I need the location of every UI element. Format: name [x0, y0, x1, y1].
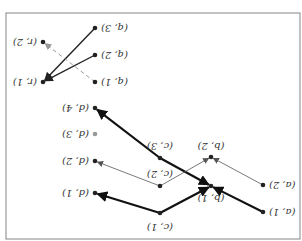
node-label-r2: (r, 2) [13, 37, 37, 48]
node-label-q2: (q, 2) [101, 50, 128, 61]
node-b1 [209, 184, 214, 189]
diagram-canvas: (a, 1)(a, 2)(b, 1)(b, 2)(c, 1)(c, 2)(c, … [0, 0, 302, 241]
node-label-b1: (b, 1) [197, 193, 224, 204]
edge-q1-to-r2 [45, 44, 95, 82]
node-q3 [93, 26, 98, 31]
node-label-c2: (c, 2) [147, 169, 173, 180]
node-d3 [93, 132, 98, 137]
node-c1 [158, 211, 163, 216]
node-label-d3: (d, 3) [62, 129, 89, 140]
edge-a2-to-b2 [213, 158, 263, 185]
nodes-layer [41, 26, 266, 216]
labels-layer: (a, 1)(a, 2)(b, 1)(b, 2)(c, 1)(c, 2)(c, … [13, 23, 296, 233]
node-label-b2: (b, 2) [197, 141, 224, 152]
node-label-d4: (d, 4) [62, 103, 89, 114]
edge-q3-to-r1 [45, 28, 95, 80]
node-c2 [158, 184, 163, 189]
node-label-c3: (c, 3) [147, 141, 173, 152]
node-q1 [93, 80, 98, 85]
node-d4 [93, 106, 98, 111]
node-b2 [209, 155, 214, 160]
node-label-r1: (r, 1) [13, 77, 37, 88]
node-r2 [41, 40, 46, 45]
node-label-d2: (d, 2) [62, 156, 89, 167]
node-q2 [93, 53, 98, 58]
node-d1 [93, 191, 98, 196]
node-label-a1: (a, 1) [269, 207, 296, 218]
graph-diagram: (a, 1)(a, 2)(b, 1)(b, 2)(c, 1)(c, 2)(c, … [0, 0, 302, 241]
edge-c1-to-d1 [97, 194, 160, 213]
node-a1 [261, 210, 266, 215]
node-label-q1: (q, 1) [101, 77, 128, 88]
edge-q2-to-r1 [45, 55, 95, 81]
edges-layer [45, 28, 263, 213]
node-label-c1: (c, 1) [147, 222, 173, 233]
node-c3 [158, 156, 163, 161]
node-label-q3: (q, 3) [101, 23, 128, 34]
node-r1 [41, 80, 46, 85]
node-label-d1: (d, 1) [62, 188, 89, 199]
node-d2 [93, 159, 98, 164]
node-label-a2: (a, 2) [269, 180, 296, 191]
node-a2 [261, 183, 266, 188]
